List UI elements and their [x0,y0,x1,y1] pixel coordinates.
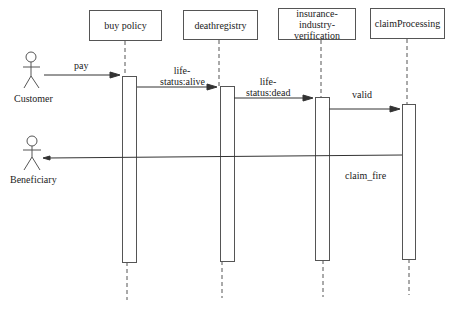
arrowhead-icon [43,156,50,160]
message-label-valid: valid [352,89,372,100]
message-label-claim-fire: claim_fire [345,170,386,181]
sequence-diagram-canvas [0,0,451,313]
activation-buy-policy [123,77,137,263]
message-label-line1: life- [160,65,204,76]
actor-label-customer: Customer [14,93,50,104]
actor-label-beneficiary: Beneficiary [10,174,56,185]
activation-insurance [316,98,330,261]
arrowhead-icon [390,106,400,112]
lifeline-label-line2: verification [294,30,340,41]
message-label-line1: life- [246,76,290,87]
message-label-line2: status:dead [246,87,290,98]
activation-deathregistry [221,87,235,262]
message-label-line2: status:alive [160,76,204,87]
activation-claim [403,105,416,260]
lifeline-label: buy policy [104,20,147,31]
lifeline-box-buy-policy: buy policy [89,10,162,41]
lifeline-label: deathregistry [194,20,246,31]
lifeline-label: claimProcessing [375,18,441,29]
arrowhead-icon [207,84,217,90]
customer-actor-icon [23,52,40,88]
lifeline-label-line1: insurance-industry- [279,8,355,30]
arrowhead-icon [110,72,120,78]
arrowhead-icon [303,95,313,101]
beneficiary-actor-icon [23,136,41,170]
message-label-pay: pay [74,60,88,71]
message-label-life-status-dead: life- status:dead [246,76,290,98]
message-label-life-status-alive: life- status:alive [160,65,204,87]
lifeline-box-insurance-industry-verification: insurance-industry- verification [278,8,356,40]
lifeline-box-claim-processing: claimProcessing [370,8,445,39]
lifeline-box-deathregistry: deathregistry [183,10,258,40]
